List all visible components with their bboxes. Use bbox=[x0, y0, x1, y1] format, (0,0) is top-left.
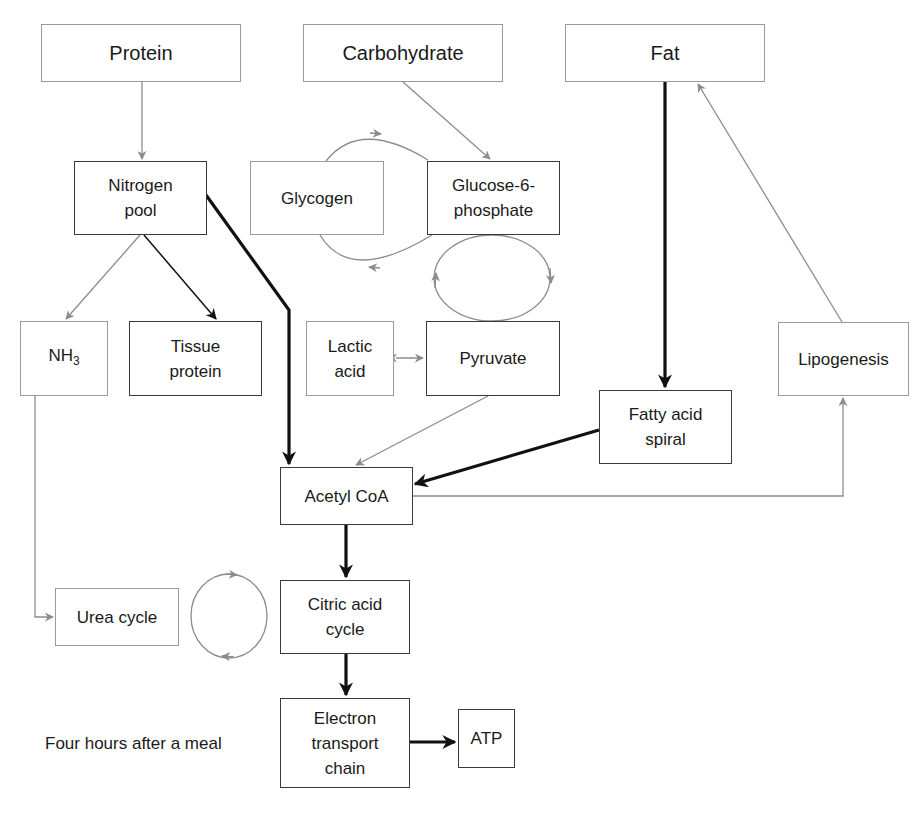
node-nitrogen-pool-label: Nitrogen pool bbox=[108, 173, 172, 223]
node-g6p-label: Glucose-6- phosphate bbox=[452, 173, 535, 223]
node-protein-label: Protein bbox=[109, 41, 172, 66]
node-glycogen-label: Glycogen bbox=[281, 186, 353, 211]
node-nitrogen-pool: Nitrogen pool bbox=[74, 161, 207, 235]
node-lipogenesis: Lipogenesis bbox=[778, 322, 909, 396]
node-nh3: NH3 bbox=[20, 321, 108, 396]
edge-nh3-urea bbox=[35, 396, 53, 617]
connector-layer bbox=[0, 0, 923, 814]
node-acetyl-coa: Acetyl CoA bbox=[280, 467, 413, 525]
node-lipogenesis-label: Lipogenesis bbox=[798, 347, 889, 372]
node-pyruvate: Pyruvate bbox=[426, 321, 560, 396]
diagram-caption: Four hours after a meal bbox=[45, 734, 222, 754]
edge-fattyacid-acetylcoa bbox=[415, 430, 599, 484]
edge-carbohydrate-g6p bbox=[403, 82, 490, 159]
node-urea-cycle-label: Urea cycle bbox=[77, 605, 157, 630]
node-nh3-label: NH3 bbox=[48, 343, 79, 374]
cycle-glycogen-top bbox=[326, 139, 428, 161]
metabolic-pathway-diagram: Protein Carbohydrate Fat Nitrogen pool G… bbox=[0, 0, 923, 814]
node-atp-label: ATP bbox=[471, 726, 503, 751]
node-electron-transport-chain: Electron transport chain bbox=[280, 698, 410, 788]
edge-nitrogen-tissue bbox=[144, 235, 216, 319]
node-pyruvate-label: Pyruvate bbox=[459, 346, 526, 371]
node-protein: Protein bbox=[41, 24, 241, 82]
node-fatty-acid-spiral: Fatty acid spiral bbox=[599, 390, 732, 464]
node-carbohydrate: Carbohydrate bbox=[303, 24, 503, 82]
node-acetyl-coa-label: Acetyl CoA bbox=[304, 484, 388, 509]
cycle-glycogen-bottom bbox=[320, 235, 432, 260]
node-fatty-acid-spiral-label: Fatty acid spiral bbox=[629, 402, 703, 452]
node-carbohydrate-label: Carbohydrate bbox=[342, 41, 463, 66]
nh3-text: NH bbox=[48, 346, 73, 365]
node-glucose-6-phosphate: Glucose-6- phosphate bbox=[427, 161, 560, 235]
node-tissue-protein-label: Tissue protein bbox=[170, 334, 222, 384]
node-urea-cycle: Urea cycle bbox=[55, 588, 179, 646]
edge-nitrogen-nh3 bbox=[66, 235, 140, 319]
node-atp: ATP bbox=[458, 709, 515, 768]
node-fat: Fat bbox=[565, 24, 765, 82]
node-citric-acid-cycle-label: Citric acid cycle bbox=[308, 592, 383, 642]
node-citric-acid-cycle: Citric acid cycle bbox=[280, 580, 410, 654]
node-tissue-protein: Tissue protein bbox=[129, 321, 262, 396]
cycle-g6p-pyruvate bbox=[434, 235, 550, 321]
edge-pyruvate-acetylcoa bbox=[356, 396, 488, 465]
node-fat-label: Fat bbox=[651, 41, 680, 66]
edge-lipogenesis-fat bbox=[698, 84, 842, 322]
node-lactic-acid-label: Lactic acid bbox=[328, 334, 372, 384]
node-glycogen: Glycogen bbox=[250, 161, 384, 235]
cycle-urea-citric bbox=[191, 574, 267, 658]
node-etc-label: Electron transport chain bbox=[311, 706, 378, 781]
node-lactic-acid: Lactic acid bbox=[306, 321, 394, 396]
nh3-subscript: 3 bbox=[73, 354, 80, 368]
